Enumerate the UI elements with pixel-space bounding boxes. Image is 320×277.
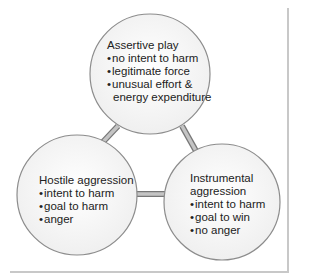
bullet-item: goal to win — [190, 211, 265, 224]
bullet-item: anger — [39, 213, 134, 226]
node-assertive-play: Assertive play no intent to harm legitim… — [107, 39, 211, 104]
bullet-item: no anger — [190, 224, 265, 237]
bullet-item: intent to harm — [190, 198, 265, 211]
connector-assertive-instrumental — [182, 126, 196, 151]
node-title: Instrumental — [190, 172, 265, 185]
bullet-item: legitimate force — [107, 65, 211, 78]
bullet-item: no intent to harm — [107, 52, 211, 65]
node-hostile-aggression: Hostile aggression intent to harm goal t… — [39, 174, 134, 226]
node-title: Assertive play — [107, 39, 211, 52]
bullet-continuation: energy expenditure — [107, 91, 211, 104]
node-title: aggression — [190, 185, 265, 198]
node-instrumental-aggression: Instrumental aggression intent to harm g… — [190, 172, 265, 237]
bullet-item: intent to harm — [39, 187, 134, 200]
bullet-item: goal to harm — [39, 200, 134, 213]
node-title: Hostile aggression — [39, 174, 134, 187]
bullet-item: unusual effort & — [107, 78, 211, 91]
